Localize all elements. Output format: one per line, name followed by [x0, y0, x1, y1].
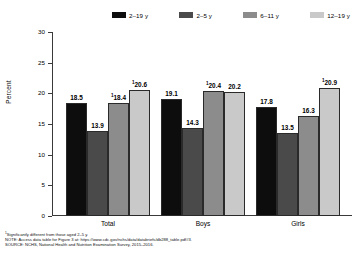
bar-wrap-total-6-11y: 118.4 — [108, 32, 129, 216]
bar-label-total-12-19y: 120.6 — [132, 81, 147, 88]
footnote-source: SOURCE: NCHS, National Health and Nutrit… — [5, 242, 305, 247]
bar-girls-2-19y — [256, 107, 277, 216]
y-tick-label-5: 5 — [42, 181, 45, 188]
legend-swatch-12-19y — [310, 12, 324, 18]
figure-container: 2–19 y 2–5 y 6–11 y 12–19 y Percent 30 2… — [0, 0, 357, 257]
bar-label-girls-12-19y: 120.9 — [322, 79, 337, 86]
bar-group-total: 18.5 13.9 118.4 — [63, 32, 153, 216]
y-tick-5: 5 — [48, 185, 52, 186]
bar-label-boys-6-11y: 120.4 — [206, 82, 221, 89]
bar-total-2-19y — [66, 103, 87, 217]
legend-label-12-19y: 12–19 y — [327, 12, 350, 19]
bar-wrap-total-12-19y: 120.6 — [129, 32, 150, 216]
bar-boys-2-19y — [161, 99, 182, 216]
y-tick-label-15: 15 — [38, 120, 45, 127]
bar-wrap-girls-2-5y: 13.5 — [277, 32, 298, 216]
bar-label-girls-2-19y: 17.8 — [260, 98, 272, 105]
bar-boys-12-19y — [224, 92, 245, 216]
y-tick-label-25: 25 — [38, 59, 45, 66]
bar-boys-2-5y — [182, 128, 203, 216]
bar-girls-2-5y — [277, 133, 298, 216]
legend-label-2-19y: 2–19 y — [129, 12, 148, 19]
bar-girls-12-19y — [319, 88, 340, 216]
footnote-block: 1Significantly different from those aged… — [5, 232, 305, 247]
y-tick-15: 15 — [48, 124, 52, 125]
bar-group-boys: 19.1 14.3 120.4 — [158, 32, 248, 216]
y-tick-label-30: 30 — [38, 28, 45, 35]
bar-total-6-11y — [108, 103, 129, 216]
bar-label-girls-2-5y: 13.5 — [281, 124, 293, 131]
legend-label-2-5y: 2–5 y — [196, 12, 212, 19]
legend-swatch-2-19y — [112, 12, 126, 18]
bar-wrap-boys-2-19y: 19.1 — [161, 32, 182, 216]
y-tick-label-0: 0 — [42, 212, 45, 219]
bar-label-total-2-5y: 13.9 — [91, 122, 103, 129]
y-tick-20: 20 — [48, 93, 52, 94]
bar-total-12-19y — [129, 90, 150, 216]
bar-label-boys-2-5y: 14.3 — [186, 119, 198, 126]
category-label-total: Total — [101, 220, 115, 228]
bar-boys-6-11y — [203, 91, 224, 216]
bar-wrap-total-2-19y: 18.5 — [66, 32, 87, 216]
bar-wrap-girls-6-11y: 16.3 — [298, 32, 319, 216]
bar-label-total-6-11y: 118.4 — [111, 94, 126, 101]
plot-area: 30 25 20 15 10 5 0 18.5 — [52, 32, 352, 216]
bar-groups: 18.5 13.9 118.4 — [53, 32, 352, 216]
bar-group-girls: 17.8 13.5 16.3 — [253, 32, 343, 216]
bar-label-boys-12-19y: 20.2 — [228, 83, 240, 90]
legend-item-2-5y: 2–5 y — [179, 12, 212, 19]
bar-wrap-boys-2-5y: 14.3 — [182, 32, 203, 216]
legend-swatch-2-5y — [179, 12, 193, 18]
y-axis-title: Percent — [5, 80, 12, 103]
y-tick-25: 25 — [48, 63, 52, 64]
bar-wrap-boys-12-19y: 20.2 — [224, 32, 245, 216]
bar-total-2-5y — [87, 131, 108, 216]
chart-legend: 2–19 y 2–5 y 6–11 y 12–19 y — [112, 9, 350, 21]
y-tick-label-20: 20 — [38, 89, 45, 96]
bar-wrap-total-2-5y: 13.9 — [87, 32, 108, 216]
y-tick-10: 10 — [48, 155, 52, 156]
bar-label-boys-2-19y: 19.1 — [165, 90, 177, 97]
bar-label-girls-6-11y: 16.3 — [302, 107, 314, 114]
bar-label-total-2-19y: 18.5 — [70, 94, 82, 101]
bar-girls-6-11y — [298, 116, 319, 216]
legend-swatch-6-11y — [243, 12, 257, 18]
bar-wrap-boys-6-11y: 120.4 — [203, 32, 224, 216]
bar-wrap-girls-12-19y: 120.9 — [319, 32, 340, 216]
y-tick-label-10: 10 — [38, 151, 45, 158]
bar-wrap-girls-2-19y: 17.8 — [256, 32, 277, 216]
category-label-girls: Girls — [291, 220, 305, 228]
legend-item-12-19y: 12–19 y — [310, 12, 350, 19]
legend-item-2-19y: 2–19 y — [112, 12, 148, 19]
legend-item-6-11y: 6–11 y — [243, 12, 279, 19]
legend-label-6-11y: 6–11 y — [260, 12, 279, 19]
y-axis-top-cap: 30 — [48, 32, 52, 33]
y-tick-0: 0 — [48, 216, 52, 217]
category-label-boys: Boys — [196, 220, 211, 228]
